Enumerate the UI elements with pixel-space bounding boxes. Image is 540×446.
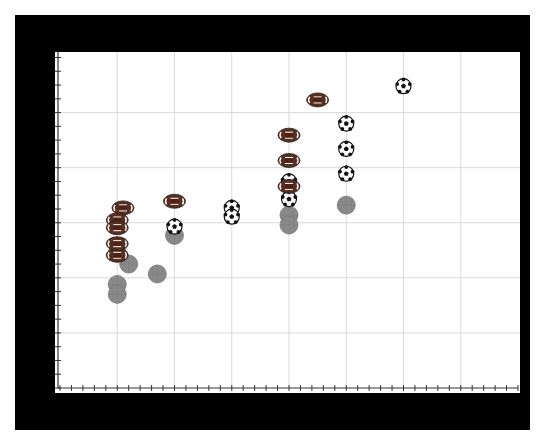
american-football-icon (278, 179, 300, 193)
soccer-ball-icon (338, 115, 354, 131)
american-football-icon (307, 93, 329, 107)
data-markers (106, 78, 411, 304)
soccer-ball-icon (338, 140, 354, 156)
basketball-icon (108, 285, 126, 303)
american-football-icon (164, 194, 186, 208)
american-football-icon (106, 237, 128, 251)
basketball-icon (280, 216, 298, 234)
scatter-chart (0, 0, 540, 446)
basketball-icon (148, 265, 166, 283)
american-football-icon (278, 128, 300, 142)
american-football-icon (106, 221, 128, 235)
basketball-icon (337, 196, 355, 214)
soccer-ball-icon (395, 78, 411, 94)
soccer-ball-icon (166, 218, 182, 234)
american-football-icon (278, 154, 300, 168)
